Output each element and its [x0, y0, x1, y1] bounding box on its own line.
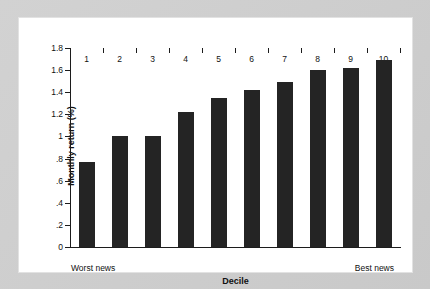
x-tick-label: 9 — [348, 55, 353, 64]
x-tick-label: 4 — [183, 55, 188, 64]
annotation-best-news: Best news — [355, 263, 394, 273]
bar — [244, 90, 260, 247]
x-tick-label: 3 — [150, 55, 155, 64]
y-tick — [65, 92, 70, 93]
x-tick — [136, 48, 137, 53]
y-tick-label: 1.4 — [51, 88, 63, 97]
x-tick — [169, 48, 170, 53]
y-tick-label: 0 — [58, 243, 63, 252]
bar — [343, 68, 359, 247]
x-tick — [235, 48, 236, 53]
y-tick — [65, 114, 70, 115]
y-tick — [65, 247, 70, 248]
x-tick — [400, 48, 401, 53]
x-tick-label: 5 — [216, 55, 221, 64]
x-tick — [70, 48, 71, 53]
annotation-worst-news: Worst news — [71, 263, 115, 273]
x-axis-title: Decile — [70, 276, 401, 286]
page-background: Monthly return (%) 1.81.61.41.21.8.6.4.2… — [0, 0, 430, 289]
x-tick — [334, 48, 335, 53]
y-tick-label: 1 — [58, 132, 63, 141]
bar — [79, 162, 95, 247]
bar — [310, 70, 326, 247]
bar — [211, 98, 227, 247]
bar — [112, 136, 128, 247]
x-axis-line — [70, 247, 401, 248]
y-tick-label: 1.2 — [51, 110, 63, 119]
x-tick-label: 7 — [282, 55, 287, 64]
y-tick-label: .6 — [56, 176, 63, 185]
x-tick — [268, 48, 269, 53]
x-tick — [301, 48, 302, 53]
y-tick-label: 1.6 — [51, 66, 63, 75]
y-tick-label: .4 — [56, 199, 63, 208]
bar — [277, 82, 293, 247]
y-tick — [65, 70, 70, 71]
x-tick-label: 1 — [84, 55, 89, 64]
x-tick-label: 6 — [249, 55, 254, 64]
y-tick — [65, 225, 70, 226]
y-tick-label: .2 — [56, 221, 63, 230]
bar — [376, 60, 392, 247]
bar — [145, 136, 161, 247]
x-tick — [103, 48, 104, 53]
x-tick — [202, 48, 203, 53]
x-tick-label: 2 — [117, 55, 122, 64]
y-tick — [65, 203, 70, 204]
plot-area: 1.81.61.41.21.8.6.4.20 12345678910 — [70, 48, 400, 247]
x-tick-label: 8 — [315, 55, 320, 64]
y-tick — [65, 159, 70, 160]
x-tick — [367, 48, 368, 53]
y-tick-label: 1.8 — [51, 44, 63, 53]
y-tick — [65, 136, 70, 137]
y-tick-label: .8 — [56, 154, 63, 163]
bar — [178, 112, 194, 247]
y-tick — [65, 181, 70, 182]
chart-figure-panel: Monthly return (%) 1.81.61.41.21.8.6.4.2… — [19, 18, 412, 272]
